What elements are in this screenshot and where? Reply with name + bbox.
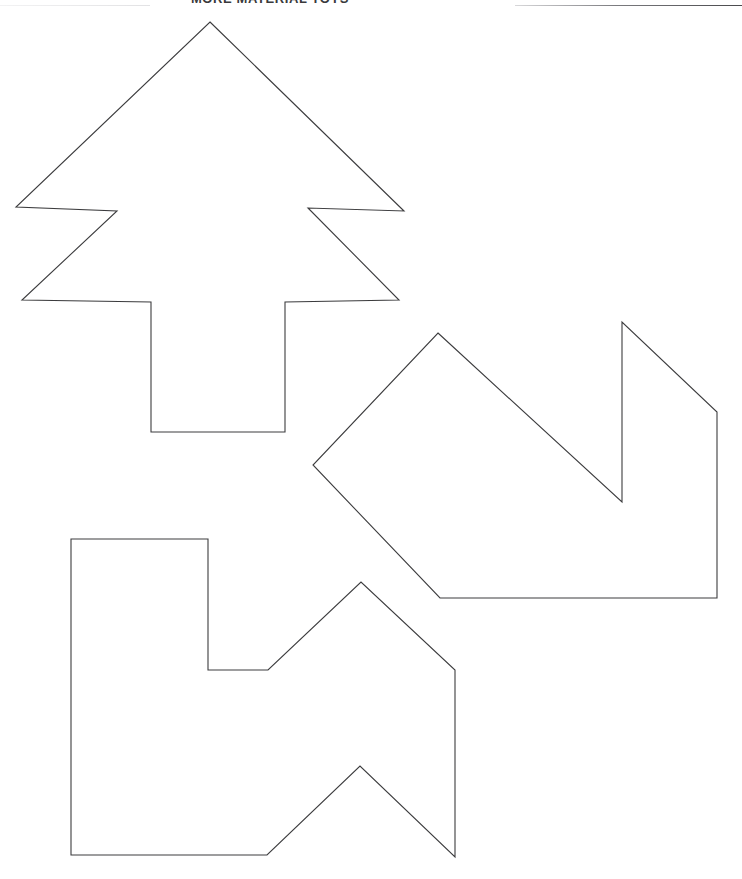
worksheet-page: MORE MATERIAL TOYS <box>0 0 742 879</box>
notched-chevron-shape <box>313 322 717 598</box>
christmas-tree-shape <box>16 22 404 432</box>
stepped-peaked-shape <box>71 539 455 857</box>
shapes-svg <box>0 0 742 879</box>
shape-canvas <box>0 0 742 879</box>
